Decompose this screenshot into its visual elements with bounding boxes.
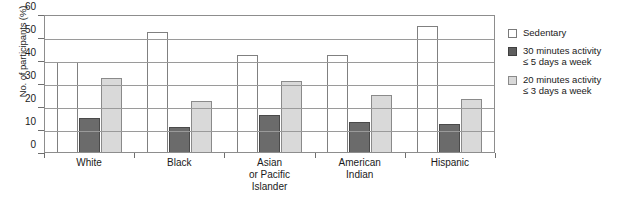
x-axis-category-label: Black — [134, 157, 224, 193]
x-label-line: Hispanic — [405, 157, 495, 169]
y-tick-label: 30 — [8, 71, 36, 81]
y-tick-mark — [38, 130, 44, 131]
x-label-line: or Pacific — [224, 169, 314, 181]
x-label-line: Indian — [315, 169, 405, 181]
y-tick-label: 20 — [8, 94, 36, 104]
y-tick-mark — [38, 38, 44, 39]
bar-sedentary — [237, 55, 258, 152]
bar-act20 — [101, 78, 122, 152]
x-axis-tick-labels: WhiteBlackAsianor PacificIslanderAmerica… — [44, 157, 495, 193]
bar-sedentary — [327, 55, 348, 152]
legend-label-line: 30 minutes activity — [523, 45, 601, 56]
legend-label: 20 minutes activity≤ 3 days a week — [523, 74, 601, 96]
legend-label-line: Sedentary — [523, 27, 566, 38]
y-tick-label: 10 — [8, 117, 36, 127]
legend-label-line: ≤ 3 days a week — [523, 85, 601, 96]
legend-swatch-icon — [508, 29, 517, 38]
legend-label-line: ≤ 5 days a week — [523, 56, 601, 67]
x-axis-category-label: AmericanIndian — [315, 157, 405, 193]
y-tick-label: 60 — [8, 2, 36, 12]
legend-label: Sedentary — [523, 27, 566, 38]
y-tick-label: 40 — [8, 48, 36, 58]
x-label-line: Islander — [224, 181, 314, 193]
bar-act30 — [259, 115, 280, 152]
bar-chart: No. of participants (%) 6050403020100 Wh… — [0, 0, 620, 203]
x-axis-category-label: White — [44, 157, 134, 193]
gridline — [45, 131, 494, 132]
bar-act30 — [439, 124, 460, 152]
x-label-line: White — [44, 157, 134, 169]
gridline — [45, 85, 494, 86]
gridline — [45, 108, 494, 109]
gridline — [45, 62, 494, 63]
x-axis-category-label: Hispanic — [405, 157, 495, 193]
bar-sedentary — [417, 26, 438, 153]
y-tick-mark — [38, 153, 44, 154]
bar-act20 — [281, 81, 302, 152]
y-axis-tick-labels: 6050403020100 — [8, 0, 36, 203]
x-tick-mark — [495, 153, 496, 158]
y-tick-mark — [38, 84, 44, 85]
legend-item[interactable]: Sedentary — [508, 27, 620, 38]
plot-area — [44, 15, 495, 153]
legend-swatch-icon — [508, 47, 517, 56]
x-label-line: Black — [134, 157, 224, 169]
legend-label-line: 20 minutes activity — [523, 74, 601, 85]
x-label-line: Asian — [224, 157, 314, 169]
bar-act20 — [371, 95, 392, 153]
y-tick-mark — [38, 107, 44, 108]
chart-legend: Sedentary30 minutes activity≤ 5 days a w… — [508, 27, 620, 103]
bar-act30 — [79, 118, 100, 153]
bar-sedentary — [147, 32, 168, 152]
legend-item[interactable]: 20 minutes activity≤ 3 days a week — [508, 74, 620, 96]
x-axis-category-label: Asianor PacificIslander — [224, 157, 314, 193]
legend-label: 30 minutes activity≤ 5 days a week — [523, 45, 601, 67]
legend-swatch-icon — [508, 76, 517, 85]
x-label-line: American — [315, 157, 405, 169]
y-tick-mark — [38, 61, 44, 62]
bar-act30 — [349, 122, 370, 152]
legend-item[interactable]: 30 minutes activity≤ 5 days a week — [508, 45, 620, 67]
y-tick-label: 0 — [8, 140, 36, 150]
gridline — [45, 39, 494, 40]
y-tick-label: 50 — [8, 25, 36, 35]
y-tick-mark — [38, 15, 44, 16]
